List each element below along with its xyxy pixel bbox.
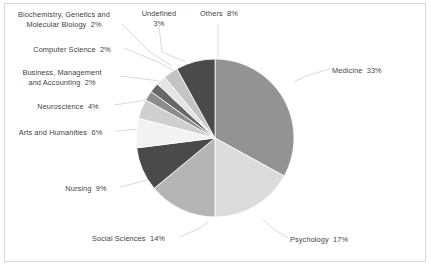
leader-social-sciences — [180, 222, 208, 237]
slice-label-line: Arts and Humanities 6% — [8, 128, 113, 138]
leader-psychology — [263, 219, 288, 238]
slice-label-line: Computer Science 2% — [22, 45, 122, 55]
slice-label-line: Nursing 9% — [54, 184, 118, 194]
slice-label-biochemistry: Biochemistry, Genetics andMolecular Biol… — [6, 10, 122, 29]
leader-medicine — [294, 69, 330, 82]
slice-label-arts-and-humanities: Arts and Humanities 6% — [8, 128, 113, 138]
slice-label-computer-science: Computer Science 2% — [22, 45, 122, 55]
slice-label-line: Others 8% — [188, 9, 250, 19]
slice-label-medicine: Medicine 33% — [332, 66, 410, 76]
slice-label-line: Biochemistry, Genetics and — [6, 10, 122, 20]
slice-label-others: Others 8% — [188, 9, 250, 19]
slice-label-business-management: Business, Managementand Accounting 2% — [7, 68, 117, 87]
slice-label-nursing: Nursing 9% — [54, 184, 118, 194]
slice-label-line: Undefined — [130, 9, 188, 19]
slice-label-line: Neuroscience 4% — [24, 102, 112, 112]
slice-label-line: 3% — [130, 19, 188, 29]
slice-label-psychology: Psychology 17% — [290, 235, 374, 245]
slice-label-neuroscience: Neuroscience 4% — [24, 102, 112, 112]
pie-chart-figure: Biochemistry, Genetics andMolecular Biol… — [0, 0, 431, 269]
slice-label-line: Medicine 33% — [332, 66, 410, 76]
slice-label-line: Business, Management — [7, 68, 117, 78]
leader-biochemistry — [122, 24, 172, 66]
slice-label-line: Psychology 17% — [290, 235, 374, 245]
slice-label-line: Molecular Biology 2% — [6, 20, 122, 30]
slice-label-line: and Accounting 2% — [7, 78, 117, 88]
pie-slices-group — [136, 59, 294, 217]
slice-label-social-sciences: Social Sciences 14% — [80, 234, 177, 244]
slice-label-line: Social Sciences 14% — [80, 234, 177, 244]
leader-undefined — [159, 26, 186, 62]
slice-label-undefined: Undefined3% — [130, 9, 188, 28]
